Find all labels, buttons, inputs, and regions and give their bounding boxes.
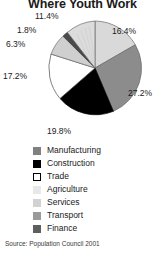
legend-swatch-icon-agriculture <box>33 186 41 194</box>
chart-legend: Manufacturing Construction Trade Agricul… <box>33 144 165 235</box>
legend-label: Finance <box>47 224 77 233</box>
legend-item-agriculture[interactable]: Agriculture <box>33 183 165 196</box>
legend-item-finance[interactable]: Finance <box>33 222 165 235</box>
legend-label: Construction <box>47 159 95 168</box>
legend-item-construction[interactable]: Construction <box>33 157 165 170</box>
legend-swatch-icon-transport <box>33 212 41 220</box>
data-label-manufacturing: 16.4% <box>112 26 136 36</box>
legend-item-manufacturing[interactable]: Manufacturing <box>33 144 165 157</box>
data-label-agriculture: 17.2% <box>3 71 27 81</box>
legend-swatch-icon-services <box>33 199 41 207</box>
chart-source-note: Source: Population Council 2001 <box>5 240 100 247</box>
legend-label: Manufacturing <box>47 146 101 155</box>
data-label-transport: 1.8% <box>17 25 36 35</box>
legend-label: Services <box>47 198 80 207</box>
chart-figure: Where Youth Work 1 <box>0 0 165 253</box>
legend-item-transport[interactable]: Transport <box>33 209 165 222</box>
legend-item-services[interactable]: Services <box>33 196 165 209</box>
legend-label: Transport <box>47 211 83 220</box>
legend-label: Agriculture <box>47 185 88 194</box>
legend-swatch-icon-trade <box>33 173 41 181</box>
legend-item-trade[interactable]: Trade <box>33 170 165 183</box>
data-label-trade: 19.8% <box>47 126 71 136</box>
legend-label: Trade <box>47 172 69 181</box>
data-label-finance: 11.4% <box>35 11 58 21</box>
legend-swatch-icon-finance <box>33 225 41 233</box>
data-label-services: 6.3% <box>6 39 25 49</box>
pie-chart-area: 16.4% 27.2% 19.8% 17.2% 6.3% 1.8% 11.4% <box>0 8 165 140</box>
data-label-construction: 27.2% <box>128 88 152 98</box>
legend-swatch-icon-manufacturing <box>33 147 41 155</box>
legend-swatch-icon-construction <box>33 160 41 168</box>
